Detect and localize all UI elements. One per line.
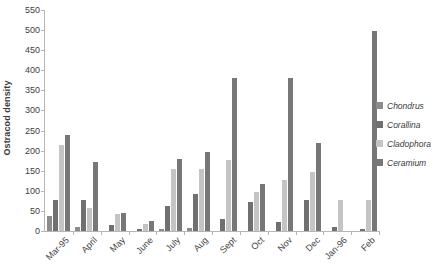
bar-cladophora-april <box>87 208 92 231</box>
legend-label: Chondrus <box>387 101 424 111</box>
bar-ceramium-oct <box>260 184 265 231</box>
bar-corallina-july <box>165 206 170 231</box>
x-axis-tick-april: April <box>79 235 99 255</box>
bar-ceramium-aug <box>205 152 210 231</box>
bar-ceramium-july <box>177 159 182 231</box>
bar-chondrus-aug <box>187 228 192 231</box>
legend-swatch-icon <box>376 140 383 147</box>
x-axis-tick-oct: Oct <box>249 235 266 252</box>
bar-cladophora-nov <box>282 180 287 231</box>
x-axis-tick-may: May <box>108 235 127 254</box>
bar-cladophora-may <box>115 214 120 231</box>
bar-cladophora-jan-96 <box>338 200 343 231</box>
y-axis-tick-100: 100 <box>25 186 40 196</box>
legend-swatch-icon <box>376 159 383 166</box>
bar-group <box>156 10 184 231</box>
x-axis-tick-sept: Sept <box>218 235 238 255</box>
bar-corallina-april <box>81 200 86 231</box>
legend-label: Ceramium <box>387 158 426 168</box>
y-axis-tick-500: 500 <box>25 25 40 35</box>
x-axis-tick-feb: Feb <box>359 235 377 253</box>
y-axis-tick-400: 400 <box>25 65 40 75</box>
plot-area <box>44 10 379 232</box>
bar-group <box>45 10 73 231</box>
y-axis-tick-labels: 050100150200250300350400450500550 <box>14 0 42 240</box>
y-axis-tick-50: 50 <box>30 206 40 216</box>
y-axis-tick-450: 450 <box>25 45 40 55</box>
y-axis-title-label: Ostracod density <box>2 80 12 155</box>
bar-group <box>240 10 268 231</box>
bar-cladophora-feb <box>366 200 371 231</box>
legend-label: Cladophora <box>387 139 431 149</box>
legend-swatch-icon <box>376 102 383 109</box>
bar-ceramium-mar-95 <box>65 135 70 231</box>
chart-legend: ChondrusCorallinaCladophoraCeramium <box>376 96 445 172</box>
bar-group <box>101 10 129 231</box>
x-axis-tick-aug: Aug <box>192 235 210 253</box>
bar-corallina-june <box>137 229 142 231</box>
bar-ceramium-april <box>93 162 98 232</box>
bar-group <box>351 10 379 231</box>
bar-corallina-nov <box>276 222 281 231</box>
bar-ceramium-dec <box>316 143 321 231</box>
bar-group <box>184 10 212 231</box>
x-axis-tick-dec: Dec <box>303 235 321 253</box>
bar-corallina-feb <box>360 229 365 231</box>
y-axis-tick-250: 250 <box>25 126 40 136</box>
x-tick-mark <box>379 231 380 235</box>
x-axis-tick-june: June <box>134 235 155 256</box>
bar-group <box>129 10 157 231</box>
bar-ceramium-nov <box>288 78 293 231</box>
bar-cladophora-mar-95 <box>59 145 64 231</box>
bar-chondrus-april <box>75 227 80 231</box>
y-axis-tick-300: 300 <box>25 105 40 115</box>
bar-cladophora-oct <box>254 192 259 231</box>
bar-cladophora-aug <box>199 169 204 231</box>
bar-corallina-oct <box>248 202 253 231</box>
legend-label: Corallina <box>387 120 421 130</box>
y-axis-tick-150: 150 <box>25 166 40 176</box>
y-axis-title: Ostracod density <box>0 0 14 235</box>
legend-item-chondrus[interactable]: Chondrus <box>376 96 445 115</box>
x-axis-tick-labels: Mar-95AprilMayJuneJulyAugSeptOctNovDecJa… <box>44 232 379 275</box>
bar-ceramium-may <box>121 213 126 231</box>
y-axis-tick-350: 350 <box>25 85 40 95</box>
bar-ceramium-june <box>149 221 154 231</box>
x-axis-tick-july: July <box>164 235 182 253</box>
bar-group <box>268 10 296 231</box>
legend-swatch-icon <box>376 121 383 128</box>
y-axis-tick-200: 200 <box>25 146 40 156</box>
bar-group <box>296 10 324 231</box>
bar-corallina-jan-96 <box>332 227 337 231</box>
x-axis-tick-nov: Nov <box>275 235 293 253</box>
bar-group <box>323 10 351 231</box>
legend-item-corallina[interactable]: Corallina <box>376 115 445 134</box>
bar-corallina-sept <box>220 219 225 231</box>
bar-cladophora-sept <box>226 160 231 231</box>
y-axis-tick-550: 550 <box>25 5 40 15</box>
bar-corallina-dec <box>304 200 309 231</box>
ostracod-density-bar-chart: Ostracod density 05010015020025030035040… <box>0 0 445 275</box>
bar-cladophora-june <box>143 224 148 231</box>
bar-cladophora-dec <box>310 172 315 231</box>
legend-item-cladophora[interactable]: Cladophora <box>376 134 445 153</box>
bar-corallina-mar-95 <box>53 200 58 231</box>
bar-group <box>212 10 240 231</box>
x-axis-tick-mar-95: Mar-95 <box>44 235 71 262</box>
bar-group <box>73 10 101 231</box>
bar-cladophora-july <box>171 169 176 231</box>
legend-item-ceramium[interactable]: Ceramium <box>376 153 445 172</box>
bar-corallina-aug <box>193 194 198 231</box>
bar-corallina-may <box>109 225 114 231</box>
x-axis-tick-jan-96: Jan-96 <box>323 235 350 262</box>
bar-chondrus-july <box>159 229 164 231</box>
bar-chondrus-mar-95 <box>47 216 52 231</box>
y-axis-tick-0: 0 <box>35 226 40 236</box>
bar-ceramium-sept <box>232 78 237 231</box>
